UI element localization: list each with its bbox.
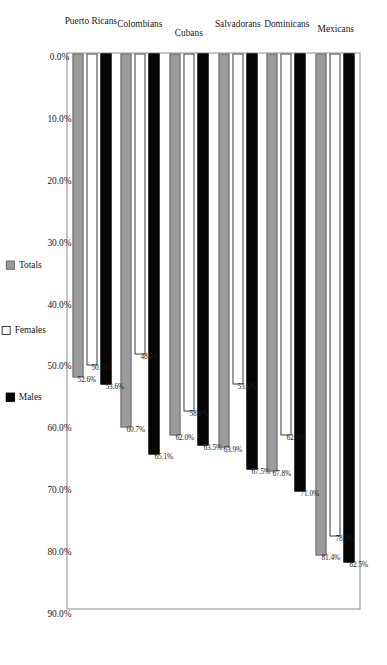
bar-group: 63.5%58.1%62.0% bbox=[164, 53, 213, 608]
bar-totals[interactable]: 62.0% bbox=[169, 53, 180, 435]
value-tick: 50.0% bbox=[48, 349, 66, 373]
bar-males[interactable]: 67.5% bbox=[246, 53, 257, 469]
bar-group: 65.1%48.8%60.7% bbox=[116, 53, 165, 608]
males-swatch bbox=[5, 392, 14, 401]
value-tick-label: 0.0% bbox=[49, 52, 69, 61]
bar-males[interactable]: 71.0% bbox=[295, 53, 306, 491]
legend-item-females[interactable]: Females bbox=[1, 326, 45, 335]
bar-totals[interactable]: 81.4% bbox=[315, 53, 326, 555]
category-label: Mexicans bbox=[311, 0, 360, 52]
legend-item-label: Males bbox=[18, 392, 41, 401]
value-tick-label: 90.0% bbox=[47, 609, 71, 618]
bar-females[interactable]: 58.1% bbox=[183, 53, 194, 411]
bar-slot: 53.6% bbox=[232, 53, 243, 608]
bar-value-label: 67.8% bbox=[272, 469, 291, 476]
bar-groups: 82.5%78.3%81.4%71.0%62.0%67.8%67.5%53.6%… bbox=[67, 53, 359, 608]
value-tick: 80.0% bbox=[48, 535, 66, 559]
category-label-text: Dominicans bbox=[264, 20, 309, 29]
category-label: Dominicans bbox=[262, 0, 311, 52]
bar-slot: 65.1% bbox=[148, 53, 159, 608]
value-tick-label: 70.0% bbox=[47, 485, 71, 494]
bar-value-label: 63.9% bbox=[223, 445, 242, 452]
bar-females[interactable]: 78.3% bbox=[329, 53, 340, 536]
bar-chart: MexicansDominicansSalvadoransCubansColom… bbox=[0, 0, 387, 665]
category-label-text: Mexicans bbox=[317, 24, 353, 33]
bar-males[interactable]: 65.1% bbox=[148, 53, 159, 454]
bar-value-label: 53.6% bbox=[105, 382, 124, 389]
plot-area: 82.5%78.3%81.4%71.0%62.0%67.8%67.5%53.6%… bbox=[66, 52, 360, 609]
legend-item-label: Females bbox=[14, 326, 45, 335]
value-tick-label: 30.0% bbox=[47, 238, 71, 247]
legend-item-totals[interactable]: Totals bbox=[5, 260, 41, 269]
bar-slot: 81.4% bbox=[315, 53, 326, 608]
bar-males[interactable]: 63.5% bbox=[197, 53, 208, 445]
bar-value-label: 67.5% bbox=[251, 468, 270, 475]
bar-males[interactable]: 53.6% bbox=[100, 53, 111, 384]
bar-value-label: 48.8% bbox=[140, 352, 159, 359]
bar-group: 71.0%62.0%67.8% bbox=[262, 53, 311, 608]
bar-slot: 63.9% bbox=[218, 53, 229, 608]
chart-legend: MalesFemalesTotals bbox=[3, 52, 43, 609]
bar-slot: 67.8% bbox=[267, 53, 278, 608]
bar-males[interactable]: 82.5% bbox=[343, 53, 354, 562]
category-label: Salvadorans bbox=[213, 0, 262, 52]
bar-value-label: 52.6% bbox=[77, 376, 96, 383]
value-tick-label: 60.0% bbox=[47, 423, 71, 432]
category-axis: MexicansDominicansSalvadoransCubansColom… bbox=[66, 0, 360, 52]
bar-females[interactable]: 50.6% bbox=[86, 53, 97, 365]
bar-value-label: 71.0% bbox=[300, 489, 319, 496]
bar-slot: 50.6% bbox=[86, 53, 97, 608]
value-tick: 30.0% bbox=[48, 226, 66, 250]
value-tick: 20.0% bbox=[48, 164, 66, 188]
value-tick: 40.0% bbox=[48, 287, 66, 311]
bar-females[interactable]: 48.8% bbox=[134, 53, 145, 354]
value-tick: 90.0% bbox=[48, 597, 66, 621]
category-label: Cubans bbox=[164, 0, 213, 52]
bar-totals[interactable]: 67.8% bbox=[267, 53, 278, 471]
bar-totals[interactable]: 60.7% bbox=[120, 53, 131, 427]
category-label-text: Puerto Ricans bbox=[64, 16, 116, 25]
bar-slot: 58.1% bbox=[183, 53, 194, 608]
legend-item-males[interactable]: Males bbox=[5, 392, 41, 401]
totals-swatch bbox=[5, 260, 14, 269]
category-label: Puerto Ricans bbox=[66, 0, 115, 52]
bar-slot: 53.6% bbox=[100, 53, 111, 608]
value-tick-label: 40.0% bbox=[47, 300, 71, 309]
category-label: Colombians bbox=[115, 0, 164, 52]
bar-slot: 52.6% bbox=[72, 53, 83, 608]
bar-value-label: 82.5% bbox=[349, 560, 368, 567]
females-swatch bbox=[1, 326, 10, 335]
value-tick: 60.0% bbox=[48, 411, 66, 435]
bar-value-label: 50.6% bbox=[91, 363, 110, 370]
bar-value-label: 65.1% bbox=[154, 453, 173, 460]
value-tick: 70.0% bbox=[48, 473, 66, 497]
value-tick-label: 10.0% bbox=[47, 114, 71, 123]
bar-slot: 78.3% bbox=[329, 53, 340, 608]
bar-value-label: 62.0% bbox=[175, 434, 194, 441]
bar-slot: 67.5% bbox=[246, 53, 257, 608]
bar-value-label: 81.4% bbox=[321, 553, 340, 560]
bar-slot: 60.7% bbox=[120, 53, 131, 608]
bar-value-label: 78.3% bbox=[335, 534, 354, 541]
bar-value-label: 53.6% bbox=[237, 382, 256, 389]
value-tick-label: 50.0% bbox=[47, 361, 71, 370]
bar-group: 82.5%78.3%81.4% bbox=[310, 53, 359, 608]
bar-slot: 48.8% bbox=[134, 53, 145, 608]
legend-item-label: Totals bbox=[18, 260, 41, 269]
value-tick-label: 80.0% bbox=[47, 547, 71, 556]
bar-females[interactable]: 53.6% bbox=[232, 53, 243, 384]
category-label-text: Colombians bbox=[117, 20, 162, 29]
bar-group: 67.5%53.6%63.9% bbox=[213, 53, 262, 608]
bar-value-label: 62.0% bbox=[286, 434, 305, 441]
value-tick: 10.0% bbox=[48, 102, 66, 126]
bar-group: 53.6%50.6%52.6% bbox=[67, 53, 116, 608]
bar-slot: 71.0% bbox=[295, 53, 306, 608]
bar-value-label: 60.7% bbox=[126, 426, 145, 433]
bar-totals[interactable]: 63.9% bbox=[218, 53, 229, 447]
category-label-text: Cubans bbox=[174, 28, 202, 37]
bar-slot: 62.0% bbox=[169, 53, 180, 608]
bar-totals[interactable]: 52.6% bbox=[72, 53, 83, 377]
value-tick-label: 20.0% bbox=[47, 176, 71, 185]
bar-slot: 82.5% bbox=[343, 53, 354, 608]
bar-females[interactable]: 62.0% bbox=[281, 53, 292, 435]
